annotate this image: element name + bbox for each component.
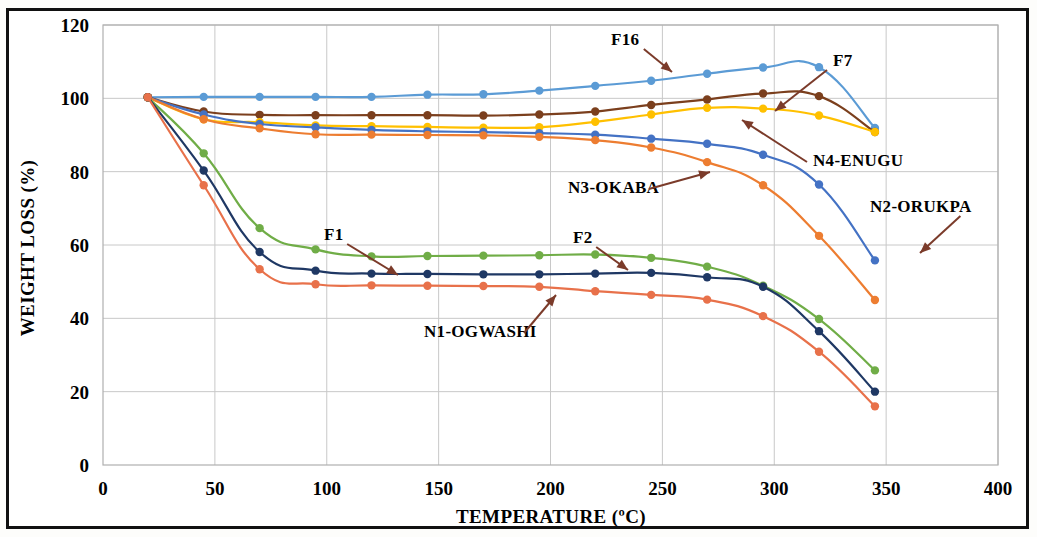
x-axis-title: TEMPERATURE (ºC) xyxy=(456,506,646,528)
data-point xyxy=(815,63,823,71)
data-point xyxy=(647,134,655,142)
data-point xyxy=(311,280,319,288)
data-point xyxy=(255,93,263,101)
data-point xyxy=(535,133,543,141)
data-point xyxy=(367,130,375,138)
data-point xyxy=(199,166,207,174)
annotation-label: F2 xyxy=(573,228,592,247)
annotation-label: N3-OKABA xyxy=(568,178,660,197)
data-point xyxy=(311,93,319,101)
data-point xyxy=(815,92,823,100)
data-point xyxy=(815,315,823,323)
data-point xyxy=(199,149,207,157)
annotation-arrowhead xyxy=(742,120,754,130)
data-point xyxy=(591,82,599,90)
data-point xyxy=(703,273,711,281)
data-point xyxy=(535,270,543,278)
data-point xyxy=(311,111,319,119)
data-point xyxy=(815,232,823,240)
data-point xyxy=(591,136,599,144)
y-tick-label: 20 xyxy=(70,382,89,403)
y-axis-tick-labels: 120100806040200 xyxy=(61,15,90,476)
data-point xyxy=(423,282,431,290)
data-point xyxy=(367,269,375,277)
data-point xyxy=(423,252,431,260)
data-point xyxy=(703,262,711,270)
data-point xyxy=(311,245,319,253)
y-tick-label: 0 xyxy=(80,455,90,476)
data-point xyxy=(591,107,599,115)
data-point xyxy=(367,93,375,101)
series-n1-ogwashi xyxy=(144,93,880,410)
data-point xyxy=(871,128,879,136)
x-tick-label: 350 xyxy=(872,478,901,499)
data-point xyxy=(591,118,599,126)
figure-canvas: 120100806040200 050100150200250300350400… xyxy=(0,0,1037,537)
data-point xyxy=(703,95,711,103)
data-point xyxy=(423,90,431,98)
annotation-f2: F2 xyxy=(573,228,628,270)
data-point xyxy=(591,287,599,295)
x-axis-tick-labels: 050100150200250300350400 xyxy=(98,478,1012,499)
data-point xyxy=(815,327,823,335)
data-point xyxy=(871,366,879,374)
series-n2-orukpa xyxy=(144,93,880,265)
annotation-label: F7 xyxy=(833,51,853,70)
annotation-f7: F7 xyxy=(775,51,853,111)
data-point xyxy=(871,296,879,304)
data-point xyxy=(759,181,767,189)
data-point xyxy=(703,104,711,112)
y-tick-label: 40 xyxy=(70,308,89,329)
y-tick-label: 60 xyxy=(70,235,89,256)
data-point xyxy=(591,269,599,277)
data-point xyxy=(703,158,711,166)
data-point xyxy=(199,93,207,101)
annotation-label: N4-ENUGU xyxy=(813,151,903,170)
data-point xyxy=(199,115,207,123)
data-point xyxy=(255,111,263,119)
data-point xyxy=(423,111,431,119)
data-point xyxy=(871,256,879,264)
x-tick-label: 200 xyxy=(536,478,565,499)
annotation-f1: F1 xyxy=(324,225,398,275)
data-point xyxy=(871,387,879,395)
data-point xyxy=(759,283,767,291)
data-point xyxy=(479,251,487,259)
data-point xyxy=(255,224,263,232)
data-point xyxy=(199,181,207,189)
annotation-label: N1-OGWASHI xyxy=(424,322,537,341)
data-point xyxy=(647,77,655,85)
annotation-label: F16 xyxy=(611,30,639,49)
annotation-label: N2-ORUKPA xyxy=(870,197,972,216)
data-point xyxy=(815,111,823,119)
x-tick-label: 300 xyxy=(760,478,789,499)
annotation-label: F1 xyxy=(324,225,343,244)
data-point xyxy=(144,93,152,101)
data-point xyxy=(479,111,487,119)
data-point xyxy=(255,265,263,273)
y-tick-label: 80 xyxy=(70,162,89,183)
y-tick-label: 120 xyxy=(61,15,90,36)
data-point xyxy=(479,270,487,278)
data-point xyxy=(759,104,767,112)
data-point xyxy=(479,90,487,98)
data-point xyxy=(759,89,767,97)
data-point xyxy=(367,111,375,119)
data-point xyxy=(647,143,655,151)
data-point xyxy=(647,101,655,109)
data-series-group xyxy=(144,61,880,411)
x-tick-label: 50 xyxy=(205,478,224,499)
data-point xyxy=(703,70,711,78)
x-tick-label: 100 xyxy=(313,478,342,499)
data-point xyxy=(535,86,543,94)
y-tick-label: 100 xyxy=(61,88,90,109)
series-n3-okaba xyxy=(144,93,880,304)
tga-weight-loss-chart: 120100806040200 050100150200250300350400… xyxy=(0,0,1037,537)
data-point xyxy=(647,269,655,277)
x-tick-label: 150 xyxy=(424,478,453,499)
data-point xyxy=(759,312,767,320)
data-point xyxy=(759,63,767,71)
data-point xyxy=(423,270,431,278)
data-point xyxy=(535,283,543,291)
data-point xyxy=(479,131,487,139)
